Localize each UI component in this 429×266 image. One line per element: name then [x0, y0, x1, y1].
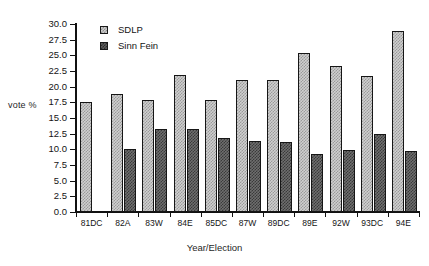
x-tick-mark	[201, 211, 202, 217]
y-tick-label: 10.0	[49, 145, 68, 155]
y-axis-title: vote %	[8, 100, 37, 110]
legend-swatch-icon	[100, 42, 108, 50]
bar-sinn-fein	[311, 154, 323, 212]
x-tick-mark	[138, 211, 139, 217]
y-tick-label: 30.0	[49, 19, 68, 29]
x-tick-mark	[325, 211, 326, 217]
bar-sinn-fein	[124, 149, 136, 212]
legend-swatch-icon	[100, 26, 108, 34]
legend: SDLPSinn Fein	[100, 22, 158, 54]
bar-group	[388, 24, 419, 212]
bar-sdlp	[142, 100, 154, 212]
x-tick-label: 94E	[396, 219, 411, 228]
x-axis-title: Year/Election	[0, 242, 429, 253]
y-tick-label: 25.0	[49, 51, 68, 61]
y-tick-label: 15.0	[49, 113, 68, 123]
x-tick-mark	[232, 211, 233, 217]
bar-group	[201, 24, 232, 212]
x-tick-label: 92W	[332, 219, 349, 228]
x-tick-mark	[76, 211, 77, 217]
bar-sinn-fein	[280, 142, 292, 212]
legend-item-sinn-fein: Sinn Fein	[100, 38, 158, 54]
bar-sdlp	[174, 75, 186, 212]
bar-sdlp	[80, 102, 92, 212]
x-tick-label: 84E	[178, 219, 193, 228]
y-tick-label: 2.5	[54, 192, 67, 202]
x-tick-mark	[294, 211, 295, 217]
bar-sdlp	[392, 31, 404, 212]
x-tick-mark	[107, 211, 108, 217]
x-tick-mark	[357, 211, 358, 217]
bar-sdlp	[361, 76, 373, 212]
legend-label: Sinn Fein	[118, 41, 158, 51]
bar-group	[170, 24, 201, 212]
x-tick-label: 93DC	[361, 219, 383, 228]
x-tick-label: 89E	[302, 219, 317, 228]
bar-sinn-fein	[187, 129, 199, 212]
legend-item-sdlp: SDLP	[100, 22, 158, 38]
bar-sinn-fein	[218, 138, 230, 212]
bar-group	[232, 24, 263, 212]
y-tick-label: 20.0	[49, 82, 68, 92]
x-tick-mark	[419, 211, 420, 217]
bar-sdlp	[111, 94, 123, 212]
bar-sinn-fein	[343, 150, 355, 212]
x-tick-label: 87W	[239, 219, 256, 228]
x-tick-label: 82A	[115, 219, 130, 228]
x-tick-label: 81DC	[81, 219, 103, 228]
y-tick-label: 5.0	[54, 176, 67, 186]
bar-chart: vote % 30.027.525.022.520.017.515.012.51…	[0, 0, 429, 266]
bar-sdlp	[330, 66, 342, 212]
y-tick-label: 22.5	[49, 66, 68, 76]
bar-sdlp	[205, 100, 217, 212]
y-tick-label: 12.5	[49, 129, 68, 139]
x-tick-label: 83W	[145, 219, 162, 228]
bar-group	[294, 24, 325, 212]
x-tick-mark	[170, 211, 171, 217]
x-tick-mark	[388, 211, 389, 217]
x-tick-mark	[263, 211, 264, 217]
bar-group	[263, 24, 294, 212]
bar-sdlp	[267, 80, 279, 212]
bar-group	[325, 24, 356, 212]
y-tick-label: 0.0	[54, 207, 67, 217]
y-tick-label: 7.5	[54, 160, 67, 170]
x-tick-label: 85DC	[205, 219, 227, 228]
x-tick-label: 89DC	[268, 219, 290, 228]
bar-sinn-fein	[374, 134, 386, 212]
bar-sinn-fein	[249, 141, 261, 212]
bar-sdlp	[236, 80, 248, 212]
y-tick-label: 17.5	[49, 98, 68, 108]
bar-sinn-fein	[155, 129, 167, 212]
bar-group	[357, 24, 388, 212]
bar-sinn-fein	[405, 151, 417, 212]
legend-label: SDLP	[118, 25, 143, 35]
bar-sdlp	[298, 53, 310, 212]
y-tick-label: 27.5	[49, 35, 68, 45]
